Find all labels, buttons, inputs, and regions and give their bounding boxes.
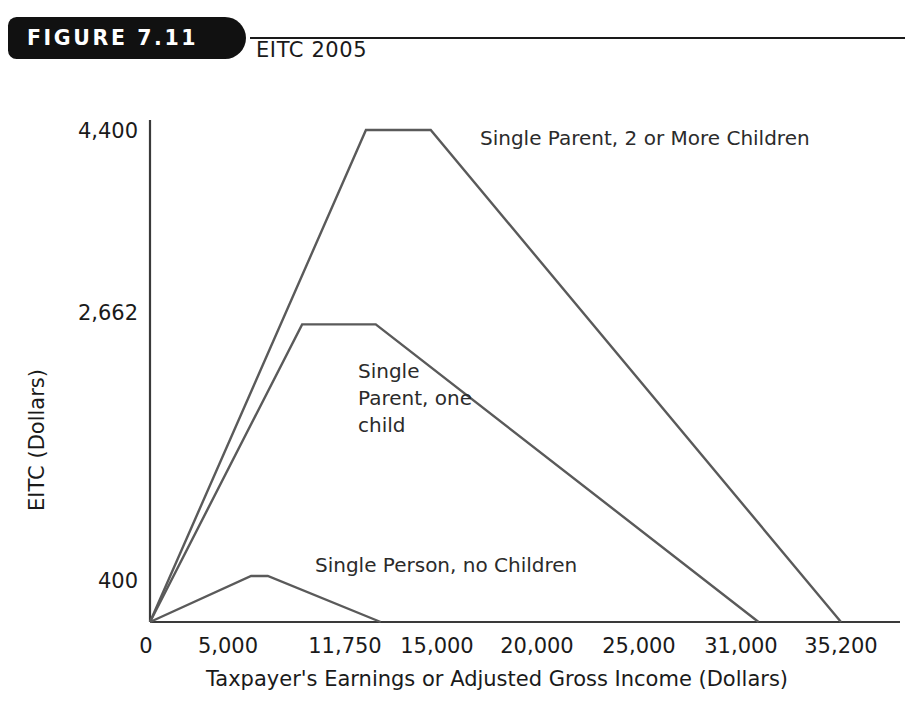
chart-area: EITC (Dollars) 4,400 2,662 400 0 5,000 1… [0, 80, 919, 725]
y-tick-label-2662: 2,662 [78, 301, 138, 325]
y-axis-title: EITC (Dollars) [25, 369, 49, 511]
annotation-two-or-more-children: Single Parent, 2 or More Children [480, 126, 810, 150]
annotation-no-children: Single Person, no Children [315, 553, 577, 577]
eitc-line-chart: EITC (Dollars) 4,400 2,662 400 0 5,000 1… [0, 80, 919, 725]
annotation-one-child-line2: Parent, one [358, 386, 472, 410]
x-axis-title: Taxpayer's Earnings or Adjusted Gross In… [205, 667, 788, 691]
series-line-two-or-more-children [150, 130, 841, 622]
x-tick-label-15000: 15,000 [400, 634, 473, 658]
x-tick-label-31000: 31,000 [704, 634, 777, 658]
x-tick-label-25000: 25,000 [602, 634, 675, 658]
y-tick-label-4400: 4,400 [78, 119, 138, 143]
figure-number-badge: FIGURE 7.11 [8, 17, 246, 59]
series-line-one-child [150, 324, 759, 622]
figure-header: FIGURE 7.11 EITC 2005 [0, 0, 919, 80]
y-tick-label-400: 400 [98, 569, 138, 593]
x-tick-label-35200: 35,200 [804, 634, 877, 658]
annotation-one-child-line1: Single [358, 359, 419, 383]
figure-title: EITC 2005 [256, 38, 367, 62]
series-line-no-children [150, 576, 381, 622]
annotation-one-child-line3: child [358, 413, 405, 437]
x-tick-label-5000: 5,000 [198, 634, 258, 658]
y-tick-label-0: 0 [139, 634, 152, 658]
x-tick-label-20000: 20,000 [500, 634, 573, 658]
x-tick-label-11750: 11,750 [308, 634, 381, 658]
